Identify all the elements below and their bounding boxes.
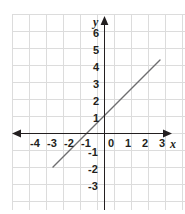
y-tick-label-neg3: -3: [88, 181, 98, 192]
x-tick-label-neg3: -3: [47, 138, 57, 149]
coordinate-plane-graph: y x 6 5 4 3 2 1 -1 -2 -3 -4 -3 -2 -1 0 1…: [0, 0, 185, 214]
y-tick-label-6: 6: [93, 28, 99, 39]
y-tick-label-4: 4: [93, 62, 99, 73]
x-tick-label-neg1: -1: [81, 138, 91, 149]
x-tick-label-neg4: -4: [30, 138, 40, 149]
x-tick-label-2: 2: [142, 138, 148, 149]
x-tick-label-3: 3: [159, 138, 165, 149]
x-tick-label-1: 1: [125, 138, 131, 149]
y-tick-label-3: 3: [93, 79, 99, 90]
y-tick-label-neg2: -2: [88, 164, 98, 175]
x-axis-label: x: [170, 138, 176, 150]
x-tick-label-neg2: -2: [64, 138, 74, 149]
y-tick-label-1: 1: [93, 113, 99, 124]
y-tick-label-2: 2: [93, 96, 99, 107]
x-tick-label-0: 0: [108, 138, 114, 149]
y-tick-label-5: 5: [93, 45, 99, 56]
